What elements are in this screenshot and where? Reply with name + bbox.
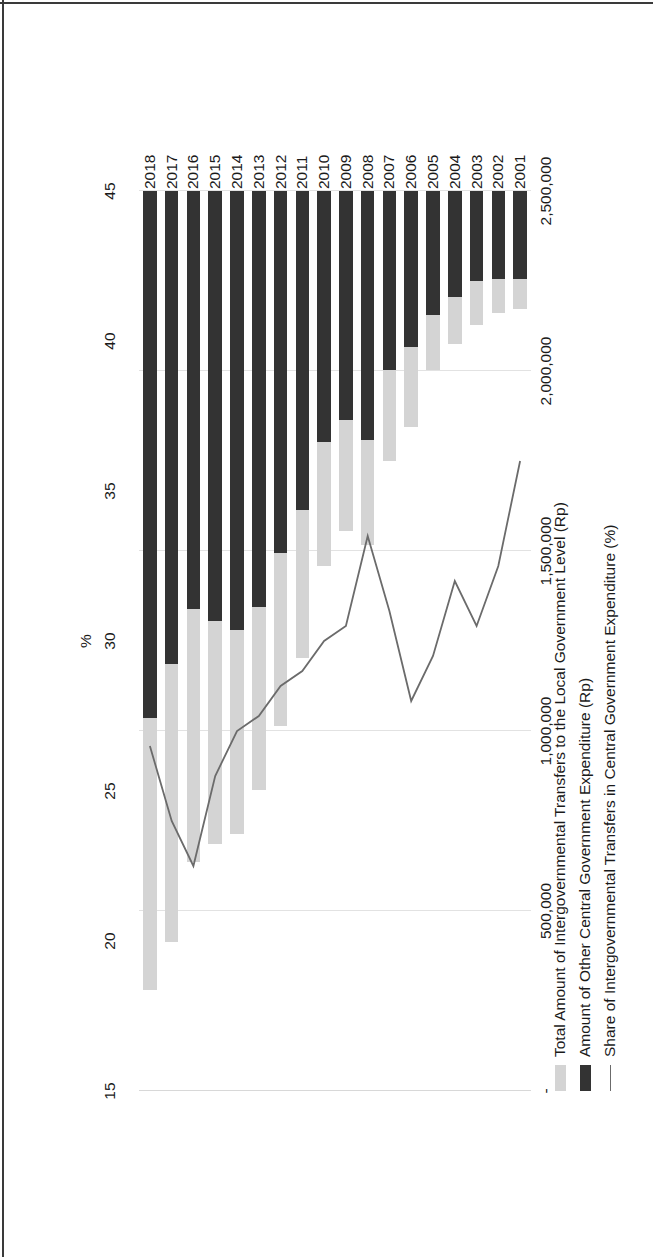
category-axis-label: 2010	[315, 154, 333, 188]
rotated-figure-wrapper: % 15202530354045 Rp billion 201820172016…	[0, 0, 653, 1257]
legend-item-label: Share of Intergovernmental Transfers in …	[601, 524, 619, 1056]
category-axis-label: 2008	[358, 154, 376, 188]
primary-axis-tick-label: 1,500,000	[537, 516, 555, 585]
line-series	[139, 191, 531, 1091]
legend-item[interactable]: Share of Intergovernmental Transfers in …	[601, 524, 619, 1090]
secondary-value-axis: 15202530354045	[101, 191, 131, 1091]
category-axis-label: 2016	[184, 154, 202, 188]
category-axis-label: 2004	[445, 154, 463, 188]
chart-figure: % 15202530354045 Rp billion 201820172016…	[77, 49, 577, 1209]
primary-axis-tick-label: 2,500,000	[537, 156, 555, 225]
share-line-path	[149, 461, 519, 866]
primary-axis-tick-label: 2,000,000	[537, 336, 555, 405]
secondary-axis-tick-label: 15	[101, 1082, 119, 1099]
category-axis-label: 2009	[336, 154, 354, 188]
primary-axis-tick-label: -	[537, 1088, 555, 1093]
secondary-axis-tick-label: 45	[101, 182, 119, 199]
secondary-axis-tick-label: 35	[101, 482, 119, 499]
secondary-axis-tick-label: 40	[101, 332, 119, 349]
category-axis-label: 2018	[140, 154, 158, 188]
category-axis: 2018201720162015201420132012201120102009…	[139, 69, 531, 189]
legend-item-label: Amount of Other Central Government Expen…	[576, 677, 594, 1056]
category-axis-label: 2006	[402, 154, 420, 188]
category-axis-label: 2002	[489, 154, 507, 188]
secondary-axis-tick-label: 30	[101, 632, 119, 649]
primary-axis-tick-label: 1,000,000	[537, 696, 555, 765]
primary-axis-tick-labels: -500,0001,000,0001,500,0002,000,0002,500…	[535, 191, 575, 1091]
scanned-figure-page: % 15202530354045 Rp billion 201820172016…	[0, 0, 653, 1257]
category-axis-label: 2007	[380, 154, 398, 188]
category-axis-label: 2015	[206, 154, 224, 188]
category-axis-label: 2014	[228, 154, 246, 188]
legend-item[interactable]: Amount of Other Central Government Expen…	[576, 677, 594, 1090]
category-axis-label: 2013	[249, 154, 267, 188]
primary-axis-tick-label: 500,000	[537, 882, 555, 938]
secondary-axis-tick-label: 25	[101, 782, 119, 799]
secondary-axis-tick-label: 20	[101, 932, 119, 949]
secondary-axis-title: %	[77, 191, 95, 1091]
category-axis-label: 2005	[424, 154, 442, 188]
category-axis-label: 2012	[271, 154, 289, 188]
legend-line-icon	[609, 1065, 610, 1091]
plot-area	[139, 191, 531, 1091]
legend-swatch-icon	[579, 1065, 590, 1091]
category-axis-label: 2001	[511, 154, 529, 188]
category-axis-label: 2003	[467, 154, 485, 188]
category-axis-label: 2017	[162, 154, 180, 188]
category-axis-label: 2011	[293, 155, 311, 188]
primary-value-axis: Rp billion	[139, 1091, 531, 1209]
